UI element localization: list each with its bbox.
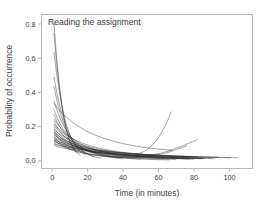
- x-tick-label: 60: [155, 173, 163, 182]
- x-tick-label: 20: [84, 173, 92, 182]
- x-tick-label: 100: [223, 173, 235, 182]
- x-tick-label: 0: [50, 173, 54, 182]
- x-tick-label: 80: [190, 173, 198, 182]
- chart-figure: 020406080100 0.00.20.40.60.8 Reading the…: [0, 0, 269, 202]
- y-tick-label: 0.6: [26, 54, 36, 63]
- x-tick-label: 40: [119, 173, 127, 182]
- y-tick-label: 0.0: [26, 156, 36, 165]
- y-tick-label: 0.4: [26, 88, 36, 97]
- y-tick-label: 0.8: [26, 20, 36, 29]
- x-axis-label: Time (in minutes): [115, 188, 180, 198]
- y-axis-label: Probability of occurrence: [4, 45, 14, 138]
- line-chart: 020406080100 0.00.20.40.60.8 Reading the…: [0, 0, 269, 202]
- y-tick-label: 0.2: [26, 122, 36, 131]
- plot-title: Reading the assignment: [48, 17, 141, 27]
